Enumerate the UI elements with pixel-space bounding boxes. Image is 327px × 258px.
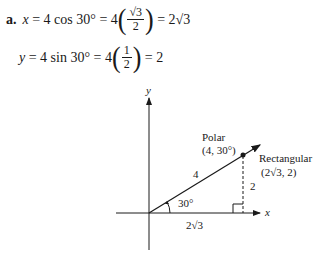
polar-coords: (4, 30°) bbox=[202, 144, 236, 157]
polar-diagram: y x Polar (4, 30°) Rectangular (2√3, 2) … bbox=[0, 0, 327, 258]
angle-label: 30° bbox=[178, 197, 193, 209]
height-label: 2 bbox=[250, 180, 256, 192]
point-marker bbox=[241, 153, 246, 158]
y-axis-label: y bbox=[145, 84, 151, 96]
right-angle-marker bbox=[233, 204, 243, 213]
x-axis-label: x bbox=[264, 206, 270, 218]
radius-label: 4 bbox=[193, 168, 199, 180]
rectangular-coords: (2√3, 2) bbox=[261, 166, 297, 179]
rectangular-label: Rectangular bbox=[259, 152, 312, 164]
polar-label: Polar bbox=[202, 131, 226, 143]
base-label: 2√3 bbox=[186, 219, 204, 231]
